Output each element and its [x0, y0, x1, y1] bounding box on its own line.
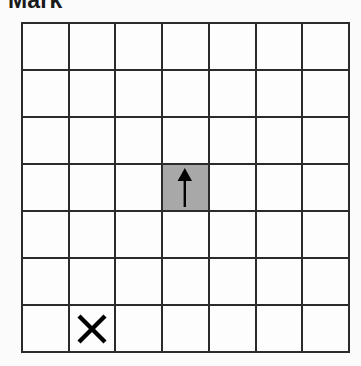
grid-row	[22, 70, 349, 117]
grid-cell-r6-c2[interactable]	[69, 258, 116, 305]
grid-cell-r2-c1[interactable]	[22, 70, 69, 117]
grid-cell-r5-c4[interactable]	[162, 211, 209, 258]
grid-row	[22, 258, 349, 305]
grid-cell-r4-c7[interactable]	[302, 164, 349, 211]
marking-grid[interactable]	[21, 22, 350, 353]
grid-row	[22, 23, 349, 70]
page-title: Mark	[8, 0, 63, 13]
grid-cell-r3-c6[interactable]	[256, 117, 303, 164]
grid-cell-r5-c6[interactable]	[256, 211, 303, 258]
grid-cell-r2-c5[interactable]	[209, 70, 256, 117]
grid-cell-r1-c2[interactable]	[69, 23, 116, 70]
grid-cell-r3-c1[interactable]	[22, 117, 69, 164]
grid-cell-r4-c1[interactable]	[22, 164, 69, 211]
grid-row	[22, 117, 349, 164]
grid-cell-r2-c3[interactable]	[115, 70, 162, 117]
grid-cell-r7-c7[interactable]	[302, 305, 349, 352]
grid-cell-r1-c7[interactable]	[302, 23, 349, 70]
grid-cell-r4-c3[interactable]	[115, 164, 162, 211]
grid-cell-r4-c4[interactable]	[162, 164, 209, 211]
grid-cell-r5-c3[interactable]	[115, 211, 162, 258]
grid-cell-r4-c5[interactable]	[209, 164, 256, 211]
grid-cell-r3-c7[interactable]	[302, 117, 349, 164]
grid-cell-r7-c1[interactable]	[22, 305, 69, 352]
grid-cell-r6-c6[interactable]	[256, 258, 303, 305]
title-bar: Mark	[0, 0, 361, 13]
grid-cell-r7-c2[interactable]	[69, 305, 116, 352]
grid-cell-r2-c2[interactable]	[69, 70, 116, 117]
grid-cell-r3-c3[interactable]	[115, 117, 162, 164]
grid-cell-r7-c5[interactable]	[209, 305, 256, 352]
grid-cell-r3-c4[interactable]	[162, 117, 209, 164]
grid-row	[22, 164, 349, 211]
grid-cell-r6-c1[interactable]	[22, 258, 69, 305]
grid-row	[22, 305, 349, 352]
grid-cell-r2-c4[interactable]	[162, 70, 209, 117]
grid-cell-r3-c2[interactable]	[69, 117, 116, 164]
grid-cell-r3-c5[interactable]	[209, 117, 256, 164]
grid-cell-r5-c2[interactable]	[69, 211, 116, 258]
grid-cell-r4-c2[interactable]	[69, 164, 116, 211]
grid-cell-r7-c3[interactable]	[115, 305, 162, 352]
grid-cell-r2-c7[interactable]	[302, 70, 349, 117]
grid-cell-r7-c6[interactable]	[256, 305, 303, 352]
cross-x-icon	[76, 313, 108, 345]
grid-cell-r7-c4[interactable]	[162, 305, 209, 352]
grid-cell-r5-c7[interactable]	[302, 211, 349, 258]
grid-cell-r6-c7[interactable]	[302, 258, 349, 305]
grid-cell-r1-c6[interactable]	[256, 23, 303, 70]
grid-cell-r1-c3[interactable]	[115, 23, 162, 70]
grid-cell-r5-c5[interactable]	[209, 211, 256, 258]
grid-cell-r4-c6[interactable]	[256, 164, 303, 211]
grid-body	[22, 23, 349, 352]
grid-cell-r2-c6[interactable]	[256, 70, 303, 117]
grid-container	[21, 22, 350, 353]
grid-cell-r5-c1[interactable]	[22, 211, 69, 258]
grid-cell-r6-c3[interactable]	[115, 258, 162, 305]
grid-cell-r1-c4[interactable]	[162, 23, 209, 70]
grid-row	[22, 211, 349, 258]
grid-cell-r6-c5[interactable]	[209, 258, 256, 305]
grid-cell-r1-c1[interactable]	[22, 23, 69, 70]
arrow-up-icon	[172, 168, 198, 208]
grid-cell-r6-c4[interactable]	[162, 258, 209, 305]
grid-cell-r1-c5[interactable]	[209, 23, 256, 70]
